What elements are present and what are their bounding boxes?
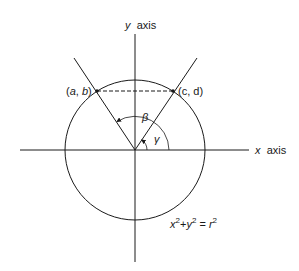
- gamma-arc: [142, 140, 147, 150]
- point-c-d: [171, 89, 175, 93]
- eq-exp-r: 2: [213, 216, 217, 225]
- eq-exp-x: 2: [176, 216, 180, 225]
- y-axis-label: y axis: [125, 20, 156, 31]
- x-axis-label: x axis: [255, 145, 286, 156]
- eq-x: x: [170, 218, 176, 230]
- x-axis-word: axis: [267, 144, 287, 156]
- circle-equation: x2+y2 = r2: [170, 219, 217, 230]
- point-a-b-label: (a, b): [66, 86, 92, 97]
- point-c-d-label: (c, d): [178, 86, 203, 97]
- gamma-label: γ: [154, 134, 160, 145]
- eq-exp-y: 2: [192, 216, 196, 225]
- point-a-b: [95, 89, 99, 93]
- coordinate-diagram: [0, 0, 299, 271]
- eq-equals: =: [199, 218, 205, 230]
- beta-label: β: [142, 112, 148, 123]
- left-ray: [74, 58, 135, 150]
- x-axis-var: x: [255, 144, 261, 156]
- paren-close: ): [88, 85, 92, 97]
- y-axis-word: axis: [137, 19, 157, 31]
- y-axis-var: y: [125, 19, 131, 31]
